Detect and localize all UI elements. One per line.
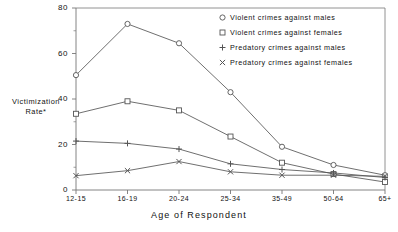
square-marker-icon xyxy=(214,28,230,37)
legend-item: Predatory crimes against females xyxy=(214,55,382,70)
chart-legend: Violent crimes against malesViolent crim… xyxy=(214,10,382,70)
legend-item-label: Violent crimes against females xyxy=(230,28,342,37)
x-tick-label: 35-49 xyxy=(262,195,302,202)
circle-marker-icon xyxy=(214,13,230,22)
y-tick-label: 20 xyxy=(44,140,68,149)
y-tick-label: 0 xyxy=(44,185,68,194)
y-tick-label: 80 xyxy=(44,3,68,12)
x-tick-label: 12-15 xyxy=(56,195,96,202)
x-tick-label: 25-34 xyxy=(211,195,251,202)
cross-marker-icon xyxy=(214,58,230,67)
chart-figure: Victimization Rate* Age of Respondent 02… xyxy=(0,0,398,232)
legend-item: Violent crimes against females xyxy=(214,25,382,40)
legend-item-label: Predatory crimes against males xyxy=(230,43,346,52)
x-tick-label: 16-19 xyxy=(108,195,148,202)
legend-item-label: Violent crimes against males xyxy=(230,13,335,22)
series-2 xyxy=(73,138,388,180)
plus-marker-icon xyxy=(214,43,230,52)
y-tick-label: 40 xyxy=(44,94,68,103)
legend-item: Violent crimes against males xyxy=(214,10,382,25)
x-tick-label: 20-24 xyxy=(159,195,199,202)
legend-item: Predatory crimes against males xyxy=(214,40,382,55)
x-tick-label: 50-64 xyxy=(314,195,354,202)
y-tick-label: 60 xyxy=(44,49,68,58)
y-axis-label-line2: Rate* xyxy=(2,107,70,117)
x-tick-label: 65+ xyxy=(365,195,398,202)
legend-item-label: Predatory crimes against females xyxy=(230,58,353,67)
x-axis-label: Age of Respondent xyxy=(0,210,398,220)
